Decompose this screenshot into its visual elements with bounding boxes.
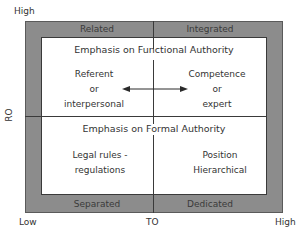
legal-line-2: regulations: [58, 163, 142, 178]
horizontal-divider: [41, 116, 267, 117]
referent-line-3: interpersonal: [52, 97, 136, 112]
referent-line-1: Referent: [52, 67, 136, 82]
x-axis-label: TO: [146, 217, 159, 227]
legal-line-1: Legal rules -: [58, 148, 142, 163]
band-related: Related: [41, 22, 153, 36]
band-dedicated: Dedicated: [154, 197, 266, 211]
band-separated: Separated: [41, 197, 153, 211]
ro-tick: [25, 116, 41, 117]
formal-authority-heading: Emphasis on Formal Authority: [41, 123, 267, 134]
vertical-divider-lower: [153, 135, 154, 195]
position-line-2: Hierarchical: [178, 163, 262, 178]
position-line-1: Position: [178, 148, 262, 163]
band-integrated: Integrated: [154, 22, 266, 36]
legal-rules-cell: Legal rules - regulations: [58, 148, 142, 178]
x-axis-low-label: Low: [19, 217, 37, 227]
y-axis-high-label: High: [14, 6, 35, 16]
double-headed-arrow-icon: [120, 85, 190, 93]
functional-authority-heading: Emphasis on Functional Authority: [41, 44, 267, 55]
competence-line-1: Competence: [178, 67, 256, 82]
x-axis-high-label: High: [275, 217, 296, 227]
position-cell: Position Hierarchical: [178, 148, 262, 178]
y-axis-label: RO: [4, 108, 14, 121]
competence-line-3: expert: [178, 97, 256, 112]
